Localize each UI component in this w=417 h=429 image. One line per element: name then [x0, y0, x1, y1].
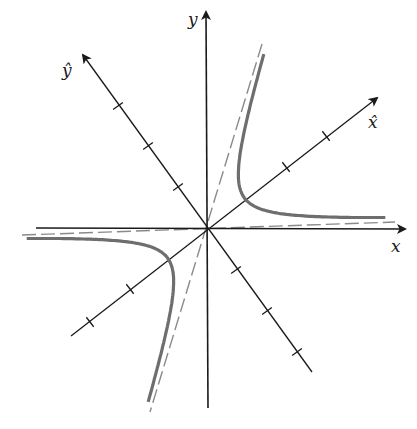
hyperbola-branch-upper-right [238, 54, 385, 217]
coordinate-axes [36, 12, 405, 408]
x-hat-axis-label: x̂ [368, 112, 378, 132]
tick-mark [173, 183, 183, 190]
hyperbola-branch-lower-left [27, 239, 174, 402]
diagram-canvas: x y x̂ ŷ [0, 0, 417, 429]
x-axis [36, 228, 405, 229]
y-axis-label: y [187, 9, 198, 29]
x-axis-label: x [391, 236, 401, 256]
hyperbola-diagram: x y x̂ ŷ [0, 0, 417, 429]
y-axis [206, 12, 208, 408]
y-hat-axis-label: ŷ [61, 60, 72, 80]
tick-mark [143, 142, 153, 149]
tick-mark [292, 348, 302, 355]
